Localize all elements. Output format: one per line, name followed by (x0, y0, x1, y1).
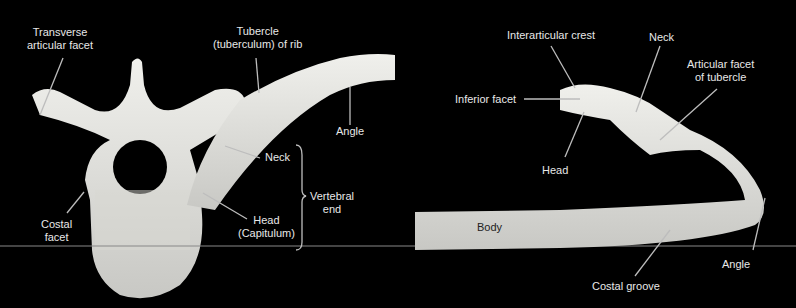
label-interarticular-crest: Interarticular crest (507, 29, 595, 42)
label-line: Articular facet (687, 58, 754, 71)
label-inferior-facet: Inferior facet (455, 93, 516, 106)
label-line: Tubercle (213, 25, 302, 38)
label-costal-groove: Costal groove (592, 280, 660, 293)
label-line: of tubercle (687, 71, 754, 84)
label-line: facet (41, 231, 72, 244)
label-line: (tuberculum) of rib (213, 38, 302, 51)
label-line: Vertebral (310, 190, 354, 203)
label-line: articular facet (27, 39, 93, 52)
label-line: Head (238, 214, 295, 227)
label-head-left: Head (Capitulum) (238, 214, 295, 240)
label-head-right: Head (542, 164, 568, 177)
label-body: Body (477, 221, 502, 234)
bone-illustration (0, 0, 796, 308)
label-articular-facet-of-tubercle: Articular facet of tubercle (687, 58, 754, 84)
rib-vertebra-anatomy-figure: Transverse articular facet Tubercle (tub… (0, 0, 796, 308)
label-line: end (310, 203, 354, 216)
label-transverse-articular-facet: Transverse articular facet (27, 26, 93, 52)
label-line: Costal (41, 218, 72, 231)
label-vertebral-end: Vertebral end (310, 190, 354, 216)
label-line: Transverse (27, 26, 93, 39)
label-costal-facet: Costal facet (41, 218, 72, 244)
label-angle-right: Angle (722, 258, 750, 271)
label-neck-right: Neck (649, 31, 674, 44)
label-neck-left: Neck (265, 151, 290, 164)
label-line: (Capitulum) (238, 227, 295, 240)
label-angle-left: Angle (336, 125, 364, 138)
label-tubercle: Tubercle (tuberculum) of rib (213, 25, 302, 51)
